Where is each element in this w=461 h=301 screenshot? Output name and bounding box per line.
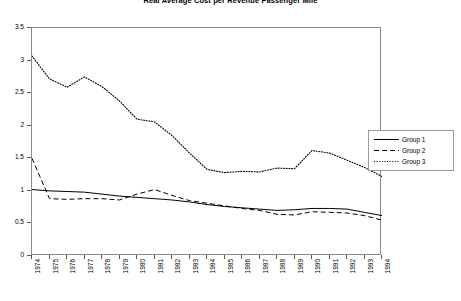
legend-label-group-3: Group 3 (400, 157, 426, 166)
x-tick-mark (294, 255, 295, 259)
x-tick-label: 1979 (122, 259, 129, 273)
legend-label-group-1: Group 1 (400, 135, 426, 144)
x-tick-label: 1978 (104, 259, 111, 273)
x-tick-label: 1984 (209, 259, 216, 273)
x-tick-mark (364, 255, 365, 259)
x-tick-mark (329, 255, 330, 259)
x-tick-label: 1989 (297, 259, 304, 273)
legend-label-group-2: Group 2 (400, 146, 426, 155)
x-tick-label: 1974 (34, 259, 41, 273)
x-tick-label: 1994 (384, 259, 391, 273)
x-tick-label: 1986 (244, 259, 251, 273)
x-tick-label: 1975 (52, 259, 59, 273)
x-tick-label: 1983 (192, 259, 199, 273)
x-tick-mark (119, 255, 120, 259)
x-tick-label: 1992 (349, 259, 356, 273)
x-tick-label: 1980 (139, 259, 146, 273)
x-tick-mark (171, 255, 172, 259)
x-tick-mark (136, 255, 137, 259)
legend-item-group-1: Group 1 (373, 134, 449, 145)
legend-item-group-3: Group 3 (373, 156, 449, 167)
x-tick-label: 1976 (69, 259, 76, 273)
x-tick-label: 1991 (332, 259, 339, 273)
x-tick-mark (101, 255, 102, 259)
x-tick-mark (224, 255, 225, 259)
x-tick-mark (259, 255, 260, 259)
chart-legend: Group 1 Group 2 Group 3 (368, 130, 454, 171)
legend-swatch-dotted-icon (373, 157, 400, 166)
x-tick-mark (154, 255, 155, 259)
x-tick-mark (31, 255, 32, 259)
legend-item-group-2: Group 2 (373, 145, 449, 156)
x-tick-label: 1993 (367, 259, 374, 273)
x-tick-mark (84, 255, 85, 259)
x-tick-label: 1988 (279, 259, 286, 273)
legend-swatch-dashed-icon (373, 146, 400, 155)
x-tick-label: 1981 (157, 259, 164, 273)
x-tick-mark (276, 255, 277, 259)
x-tick-label: 1982 (174, 259, 181, 273)
x-tick-label: 1985 (227, 259, 234, 273)
x-tick-mark (206, 255, 207, 259)
x-tick-label: 1977 (87, 259, 94, 273)
chart-figure: Real Average Cost per Revenue Passenger … (0, 0, 461, 301)
x-tick-mark (66, 255, 67, 259)
x-tick-mark (49, 255, 50, 259)
x-tick-mark (346, 255, 347, 259)
x-tick-mark (189, 255, 190, 259)
x-tick-mark (241, 255, 242, 259)
x-tick-mark (311, 255, 312, 259)
legend-swatch-solid-icon (373, 135, 400, 144)
x-tick-mark (381, 255, 382, 259)
x-tick-label: 1990 (314, 259, 321, 273)
x-tick-label: 1987 (262, 259, 269, 273)
